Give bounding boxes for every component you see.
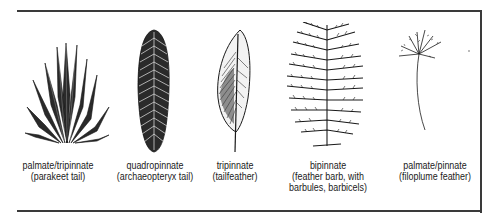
caption-bipinnate: bipinnate (feather barb, with barbules, … [286,160,371,193]
frame-top-rule [17,10,482,12]
archaeopteryx-tail-illustration [136,28,172,154]
caption-subtitle: (parakeet tail) [16,171,101,182]
tailfeather-illustration [214,28,254,154]
filoplume-illustration [397,28,447,132]
caption-palmate-pinnate: palmate/pinnate (filoplume feather) [393,160,478,182]
caption-subtitle: (filoplume feather) [393,171,478,182]
frame-bottom-rule [17,210,482,212]
caption-quadropinnate: quadropinnate (archaeopteryx tail) [113,160,198,182]
parakeet-tail-illustration [25,35,110,147]
caption-tripinnate: tripinnate (tailfeather) [205,160,265,182]
caption-subtitle-cont: barbules, barbicels) [286,182,371,193]
stray-dot [468,50,470,52]
caption-palmate-tripinnate: palmate/tripinnate (parakeet tail) [16,160,101,182]
frame-right-rule [480,10,482,213]
caption-subtitle: (archaeopteryx tail) [113,171,198,182]
caption-subtitle: (tailfeather) [205,171,265,182]
feather-barb-illustration [283,22,373,152]
